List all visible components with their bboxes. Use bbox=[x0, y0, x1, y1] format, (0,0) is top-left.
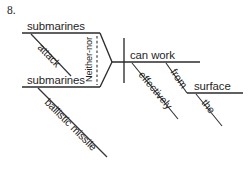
preposition-word: from bbox=[168, 66, 190, 90]
conjunction-bracket-lower bbox=[100, 62, 112, 87]
preposition-object-word: surface bbox=[194, 80, 231, 92]
article-word: the bbox=[199, 97, 218, 116]
top-subject-word: submarines bbox=[27, 20, 85, 32]
exercise-number: 8. bbox=[7, 4, 16, 16]
conjunction-bracket-upper bbox=[100, 33, 112, 62]
sentence-diagram-canvas: 8. submarines attack submarines ballisti… bbox=[0, 0, 248, 175]
bottom-modifier-word: ballistic missile bbox=[43, 96, 100, 153]
sentence-diagram-container: 8. submarines attack submarines ballisti… bbox=[0, 0, 248, 175]
bottom-subject-word: submarines bbox=[27, 74, 85, 86]
top-modifier-word: attack bbox=[36, 41, 64, 70]
conjunction-word: Neither-nor bbox=[84, 37, 94, 82]
predicate-verb-word: can work bbox=[130, 49, 175, 61]
